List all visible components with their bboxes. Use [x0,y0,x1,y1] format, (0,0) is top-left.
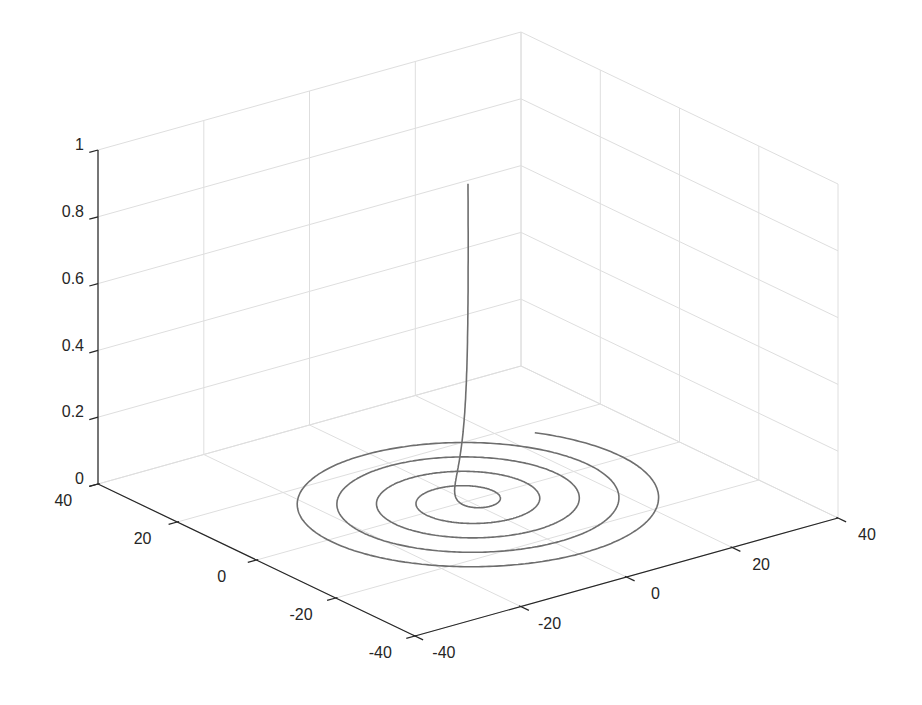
y-tick [327,598,337,601]
x-tick [625,576,635,581]
floor-grid-y [336,480,759,598]
z-tick-label: 0.4 [62,337,84,354]
spiral-series [297,184,658,567]
x-tick [836,517,846,522]
z-tick-label: 1 [75,136,84,153]
x-tick [519,606,529,611]
x-tick-label: 20 [752,556,770,573]
z-tick [89,417,98,419]
z-tick-label: 0.6 [62,270,84,287]
z-tick [89,484,98,486]
floor-grid-y [257,442,680,560]
y-tick-label: 20 [134,530,152,547]
z-tick [89,350,98,352]
y-tick-label: 40 [54,492,72,509]
x-tick-label: -20 [538,615,561,632]
z-tick [89,150,98,152]
x-tick-label: 40 [858,526,876,543]
y-tick-label: 0 [217,568,226,585]
y-tick [248,560,258,563]
z-tick-label: 0.2 [62,403,84,420]
3d-line-plot: -40-2002040-40-200204000.20.40.60.81 [0,0,922,705]
z-tick [89,284,98,286]
z-tick-label: 0.8 [62,203,84,220]
y-tick [406,636,416,639]
y-tick [169,522,179,525]
y-tick-label: -40 [369,644,392,661]
x-tick [731,547,741,552]
x-tick-label: 0 [651,585,660,602]
spiral-line [297,184,658,567]
z-tick-label: 0 [75,470,84,487]
y-tick-label: -20 [290,606,313,623]
x-tick-label: -40 [432,644,455,661]
z-tick [89,217,98,219]
